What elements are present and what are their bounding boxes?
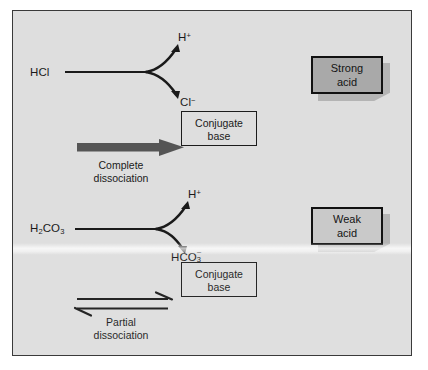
complete-dissociation-line2: dissociation: [71, 172, 171, 185]
figure-root: HCl H+ Cl− Conjugate base Complete disso…: [0, 0, 428, 370]
conjugate-base-box-bottom: Conjugate base: [181, 262, 257, 297]
hcl-arrow-to-proton: [146, 49, 176, 72]
weak-acid-box: Weak acid: [311, 207, 383, 245]
product-chloride-label: Cl−: [180, 96, 196, 109]
conjugate-base-box-top: Conjugate base: [181, 111, 257, 146]
conjugate-base-line1-bottom: Conjugate: [182, 268, 256, 281]
h2co3-arrow-to-proton: [156, 206, 186, 229]
complete-dissociation-arrow: [77, 139, 184, 156]
chloride-symbol: Cl: [180, 96, 191, 108]
weak-acid-line2: acid: [337, 226, 357, 240]
partial-dissociation-line2: dissociation: [71, 329, 171, 342]
partial-dissociation-arrows: [75, 293, 172, 316]
bicarbonate-charge-stack: −3: [197, 250, 202, 261]
reactant-hcl-label: HCl: [30, 66, 49, 79]
partial-dissociation-line1: Partial: [71, 316, 171, 329]
proton-charge-bottom: +: [196, 188, 200, 197]
strong-acid-line1: Strong: [331, 61, 363, 75]
hcl-proton-arrowhead: [171, 44, 180, 52]
chloride-charge: −: [191, 96, 195, 105]
reactant-h2co3-label: H2CO3: [30, 222, 64, 236]
conjugate-base-line2-bottom: base: [182, 281, 256, 294]
h2co3-co: CO: [43, 222, 60, 234]
weak-acid-callout: Weak acid: [311, 207, 383, 245]
partial-dissociation-caption: Partial dissociation: [71, 316, 171, 342]
hcl-arrow-to-anion: [146, 72, 176, 94]
strong-acid-callout: Strong acid: [311, 56, 383, 94]
weak-acid-line1: Weak: [333, 212, 361, 226]
product-proton-label-top: H+: [178, 31, 191, 44]
conjugate-base-line2-top: base: [182, 130, 256, 143]
product-proton-label-bottom: H+: [188, 188, 201, 201]
proton-charge-top: +: [186, 31, 190, 40]
strong-acid-box: Strong acid: [311, 56, 383, 94]
conjugate-base-line1-top: Conjugate: [182, 117, 256, 130]
hcl-anion-arrowhead: [171, 91, 180, 99]
diagram-frame: HCl H+ Cl− Conjugate base Complete disso…: [12, 10, 412, 356]
strong-acid-line2: acid: [337, 75, 357, 89]
complete-dissociation-line1: Complete: [71, 159, 171, 172]
h2co3-sub2: 3: [60, 227, 64, 236]
complete-dissociation-caption: Complete dissociation: [71, 159, 171, 185]
h2co3-proton-arrowhead: [181, 201, 190, 209]
